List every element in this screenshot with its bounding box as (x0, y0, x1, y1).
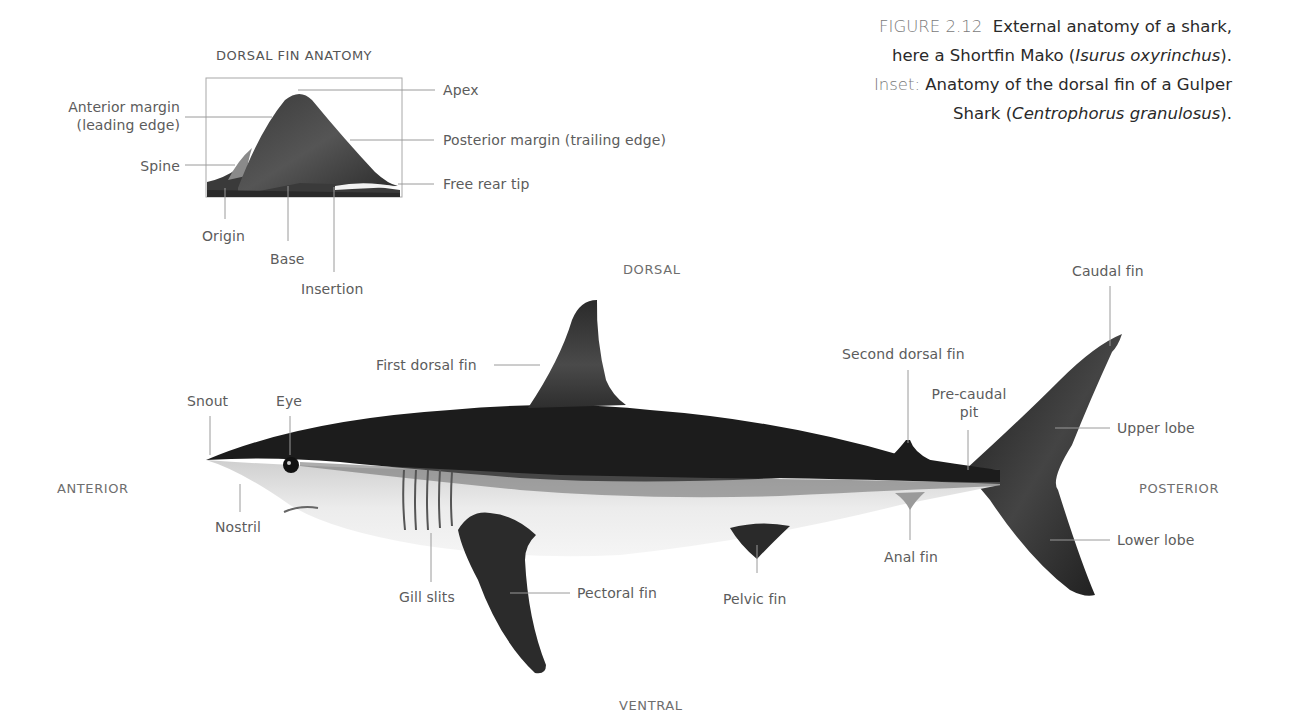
label-posterior-margin: Posterior margin (trailing edge) (443, 131, 666, 149)
inset-label: Inset: (874, 75, 920, 94)
inset-title: DORSAL FIN ANATOMY (216, 48, 372, 63)
label-pelvic-fin: Pelvic fin (723, 590, 786, 608)
label-eye: Eye (276, 392, 302, 410)
label-insertion: Insertion (301, 280, 363, 298)
label-snout: Snout (187, 392, 228, 410)
orientation-anterior: ANTERIOR (57, 481, 129, 496)
species-name-gulper: Centrophorus granulosus (1012, 104, 1220, 123)
label-anterior-margin-line2: (leading edge) (40, 116, 180, 134)
caption-line-1: External anatomy of a shark, (993, 17, 1232, 36)
label-nostril: Nostril (215, 518, 261, 536)
caption-line-2: here a Shortfin Mako ( (892, 46, 1075, 65)
caption-punct: ). (1220, 104, 1232, 123)
label-first-dorsal-fin: First dorsal fin (376, 356, 477, 374)
caption-line-3: Anatomy of the dorsal fin of a Gulper (925, 75, 1232, 94)
label-anterior-margin: Anterior margin (leading edge) (40, 98, 180, 134)
label-lower-lobe: Lower lobe (1117, 531, 1194, 549)
label-second-dorsal-fin: Second dorsal fin (842, 345, 965, 363)
label-apex: Apex (443, 81, 479, 99)
inset-dorsal-fin (206, 78, 402, 197)
label-origin: Origin (202, 227, 245, 245)
caption-line-4: Shark ( (953, 104, 1012, 123)
label-pectoral-fin: Pectoral fin (577, 584, 657, 602)
label-gill-slits: Gill slits (399, 588, 455, 606)
label-pre-caudal-pit-line2: pit (926, 403, 1012, 421)
figure-number: FIGURE 2.12 (879, 17, 982, 36)
label-spine: Spine (120, 157, 180, 175)
label-pre-caudal-pit-line1: Pre-caudal (926, 385, 1012, 403)
label-pre-caudal-pit: Pre-caudal pit (926, 385, 1012, 421)
label-base: Base (270, 250, 305, 268)
label-anal-fin: Anal fin (884, 548, 938, 566)
orientation-dorsal: DORSAL (623, 262, 681, 277)
shark-body (206, 300, 1122, 673)
figure-caption: FIGURE 2.12 External anatomy of a shark,… (752, 12, 1232, 128)
species-name-mako: Isurus oxyrinchus (1075, 46, 1220, 65)
orientation-posterior: POSTERIOR (1139, 481, 1219, 496)
label-upper-lobe: Upper lobe (1117, 419, 1195, 437)
orientation-ventral: VENTRAL (619, 698, 683, 713)
label-caudal-fin: Caudal fin (1072, 262, 1144, 280)
label-anterior-margin-line1: Anterior margin (40, 98, 180, 116)
label-free-rear-tip: Free rear tip (443, 175, 530, 193)
caption-punct: ). (1220, 46, 1232, 65)
